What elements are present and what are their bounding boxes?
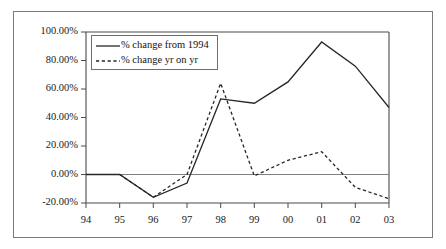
chart-figure: 100.00% 80.00% 60.00% 40.00% 20.00% 0.00… xyxy=(13,11,433,238)
series-line-pct-change-yr-on-yr xyxy=(120,83,389,198)
x-tick-label-97: 97 xyxy=(173,215,201,226)
chart-legend: % change from 1994 % change yr on yr xyxy=(91,35,218,70)
legend-label-1: % change yr on yr xyxy=(121,55,198,66)
y-tick-label-40: 40.00% xyxy=(14,112,78,123)
legend-entry-pct-change-yr-on-yr: % change yr on yr xyxy=(95,53,214,68)
y-tick-label-0: 0.00% xyxy=(14,169,78,180)
legend-label-0: % change from 1994 xyxy=(121,40,209,51)
y-tick-label-80: 80.00% xyxy=(14,55,78,66)
legend-dashed-line-icon xyxy=(95,56,121,66)
x-tick-label-02: 02 xyxy=(341,215,369,226)
legend-entry-pct-change-from-1994: % change from 1994 xyxy=(95,38,214,53)
x-tick-label-01: 01 xyxy=(308,215,336,226)
x-tick-label-99: 99 xyxy=(240,215,268,226)
x-tick-label-00: 00 xyxy=(274,215,302,226)
y-tick-label-60: 60.00% xyxy=(14,83,78,94)
x-tick-label-96: 96 xyxy=(139,215,167,226)
x-axis-ticks xyxy=(86,203,389,208)
y-tick-label-20: 20.00% xyxy=(14,140,78,151)
y-tick-label-100: 100.00% xyxy=(14,26,78,37)
legend-solid-line-icon xyxy=(95,41,121,51)
x-tick-label-95: 95 xyxy=(106,215,134,226)
y-tick-label-neg20: -20.00% xyxy=(14,197,78,208)
x-tick-label-94: 94 xyxy=(72,215,100,226)
y-axis-ticks xyxy=(81,32,86,203)
x-tick-label-98: 98 xyxy=(207,215,235,226)
x-tick-label-03: 03 xyxy=(375,215,403,226)
